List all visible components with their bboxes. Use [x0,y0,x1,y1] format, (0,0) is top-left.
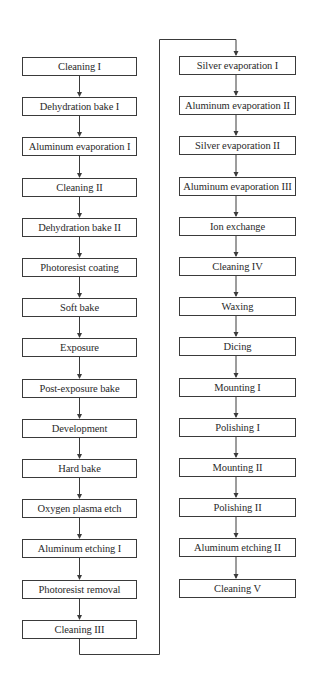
process-step-box: Cleaning IV [179,257,296,276]
process-step-box: Cleaning III [22,620,137,639]
process-step-box: Photoresist coating [22,258,137,277]
process-step-box: Dicing [179,337,296,356]
process-step-box: Ion exchange [179,217,296,236]
process-step-box: Soft bake [22,298,137,317]
process-step-box: Dehydration bake II [22,218,137,237]
process-step-box: Aluminum etching I [22,539,137,558]
process-step-box: Polishing I [179,418,296,437]
process-step-box: Mounting II [179,458,296,477]
process-step-box: Photoresist removal [22,580,137,599]
process-step-box: Cleaning I [22,57,137,76]
process-step-box: Development [22,419,137,438]
process-step-box: Aluminum etching II [179,538,296,557]
process-step-box: Aluminum evaporation I [22,137,137,156]
process-step-box: Hard bake [22,459,137,478]
process-step-box: Mounting I [179,378,296,397]
process-step-box: Polishing II [179,498,296,517]
process-step-box: Cleaning II [22,178,137,197]
process-step-box: Aluminum evaporation II [179,96,296,115]
process-step-box: Waxing [179,297,296,316]
process-step-box: Exposure [22,338,137,357]
process-step-box: Cleaning V [179,579,296,598]
process-step-box: Post-exposure bake [22,379,137,398]
process-flow-diagram: Cleaning IDehydration bake IAluminum eva… [0,0,311,684]
process-step-box: Silver evaporation I [179,56,296,75]
process-step-box: Aluminum evaporation III [179,177,296,196]
process-step-box: Dehydration bake I [22,97,137,116]
process-step-box: Silver evaporation II [179,136,296,155]
process-step-box: Oxygen plasma etch [22,499,137,518]
